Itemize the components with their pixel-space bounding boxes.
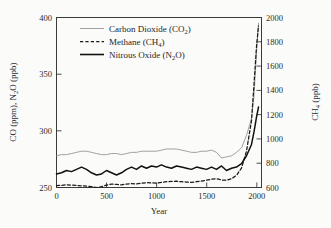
right-axis: 600 800 1000 1200 1400 1600 1800 2000 CH… [257,13,322,193]
left-axis-title-tail: O (ppb) [8,62,18,90]
left-tick-label-300: 300 [39,126,52,136]
left-tick-label-350: 350 [39,69,52,79]
x-tick-label-0: 0 [54,191,58,201]
left-axis: 250 300 350 400 CO (ppm), N2O (ppb) [8,13,62,193]
right-axis-title: CH4 (ppb) [310,83,321,121]
right-axis-title-main: CH [310,108,320,121]
right-tick-label-600: 600 [266,183,279,193]
data-series-group [57,23,259,187]
legend-label-methane-main: Methane (CH [109,37,159,47]
left-tick-label-250: 250 [39,183,52,193]
x-axis-title: Year [151,206,168,216]
left-tick-label-400: 400 [39,13,52,23]
right-tick-label-1200: 1200 [266,110,283,120]
right-tick-label-800: 800 [266,158,279,168]
legend-label-carbon-dioxide-main: Carbon Dioxide (CO [109,24,185,34]
right-tick-label-1600: 1600 [266,61,283,71]
x-tick-label-500: 500 [100,191,113,201]
greenhouse-gas-concentration-chart: 250 300 350 400 CO (ppm), N2O (ppb) 600 … [0,0,331,228]
legend-label-carbon-dioxide-tail: ) [188,24,191,34]
left-axis-title: CO (ppm), N2O (ppb) [8,62,19,141]
series-line-nitrous-oxide [57,107,259,175]
x-tick-label-2000: 2000 [248,191,265,201]
legend-label-methane: Methane (CH4) [109,37,165,48]
x-tick-label-1000: 1000 [148,191,165,201]
legend-label-nitrous-oxide-tail: O) [175,50,185,60]
x-tick-label-1500: 1500 [198,191,215,201]
legend-label-carbon-dioxide: Carbon Dioxide (CO2) [109,24,191,35]
svg-text:CO (ppm), N2O (ppb): CO (ppm), N2O (ppb) [8,62,19,141]
svg-text:CH4 (ppb): CH4 (ppb) [310,83,321,121]
right-tick-label-1000: 1000 [266,134,283,144]
legend-label-methane-tail: ) [162,37,165,47]
chart-canvas: 250 300 350 400 CO (ppm), N2O (ppb) 600 … [0,0,331,228]
legend-label-nitrous-oxide: Nitrous Oxide (N2O) [109,50,185,61]
left-axis-title-main: CO (ppm), N [8,93,18,141]
right-axis-title-tail: (ppb) [310,83,320,105]
legend: Carbon Dioxide (CO2) Methane (CH4) Nitro… [80,24,191,61]
right-tick-label-1800: 1800 [266,37,283,47]
right-tick-label-2000: 2000 [266,13,283,23]
legend-label-nitrous-oxide-main: Nitrous Oxide (N [109,50,172,60]
right-tick-label-1400: 1400 [266,85,283,95]
